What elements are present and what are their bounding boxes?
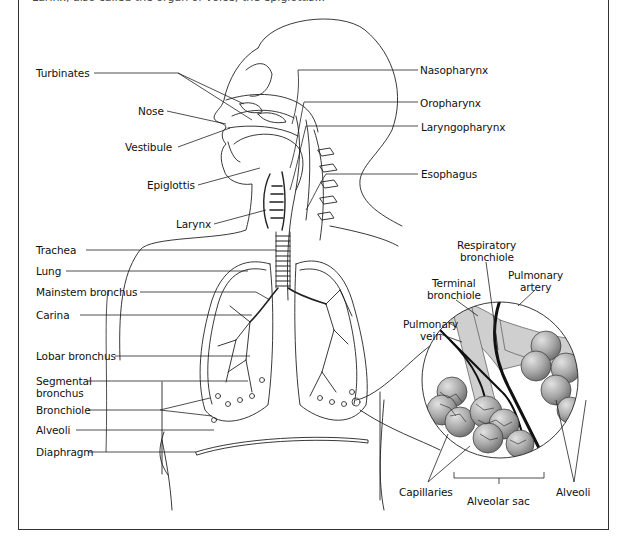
- larynx: [264, 174, 270, 228]
- label-terminal-2: bronchiole: [427, 290, 481, 301]
- label-lobar-bronchus: Lobar bronchus: [36, 351, 116, 362]
- label-bronchiole: Bronchiole: [36, 405, 91, 416]
- label-segmental-2: bronchus: [36, 388, 84, 399]
- label-lung: Lung: [36, 266, 61, 277]
- label-alveolar-sac: Alveolar sac: [467, 496, 530, 507]
- diaphragm: [196, 437, 368, 455]
- label-epiglottis: Epiglottis: [147, 180, 195, 191]
- label-mainstem-bronchus: Mainstem bronchus: [36, 287, 137, 298]
- label-laryngopharynx: Laryngopharynx: [421, 122, 505, 133]
- label-alveoli-left: Alveoli: [36, 425, 70, 436]
- label-trachea: Trachea: [36, 245, 76, 256]
- label-turbinates: Turbinates: [36, 68, 90, 79]
- label-larynx: Larynx: [176, 219, 211, 230]
- label-respiratory-2: bronchiole: [460, 252, 514, 263]
- label-nose: Nose: [138, 106, 164, 117]
- left-lung: [200, 262, 273, 421]
- label-pulmonary-artery: Pulmonary: [508, 270, 563, 281]
- label-respiratory: Respiratory: [457, 240, 516, 251]
- label-diaphragm: Diaphragm: [36, 447, 94, 458]
- label-capillaries: Capillaries: [399, 487, 453, 498]
- label-vestibule: Vestibule: [125, 142, 172, 153]
- label-carina: Carina: [36, 310, 70, 321]
- label-alveoli-right: Alveoli: [556, 487, 590, 498]
- label-pulmonary-artery-2: artery: [520, 282, 551, 293]
- label-pulmonary-vein-2: vein: [420, 331, 442, 342]
- label-esophagus: Esophagus: [421, 169, 477, 180]
- label-segmental: Segmental: [36, 376, 92, 387]
- diagram-stage: Larinx, also called the organ of voice; …: [0, 0, 620, 541]
- label-terminal: Terminal: [432, 278, 476, 289]
- label-pulmonary-vein: Pulmonary: [403, 319, 458, 330]
- label-nasopharynx: Nasopharynx: [420, 65, 488, 76]
- label-oropharynx: Oropharynx: [420, 98, 481, 109]
